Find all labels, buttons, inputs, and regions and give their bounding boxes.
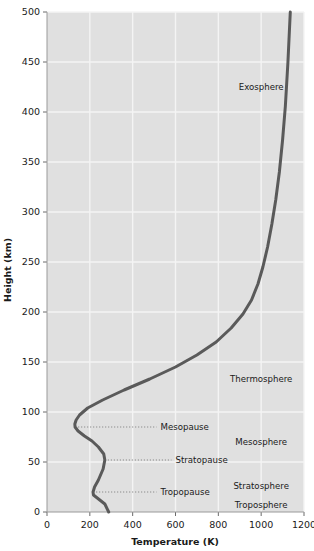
y-tick-label: 100 [22, 406, 40, 417]
atmosphere-temperature-chart: 050100150200250300350400450500 020040060… [0, 0, 314, 551]
x-tick-label: 600 [166, 519, 184, 530]
y-tick-label: 500 [22, 6, 40, 17]
x-tick-label: 1000 [249, 519, 273, 530]
pause-tropopause: Tropopause [160, 487, 210, 497]
y-axis-title: Height (km) [2, 238, 13, 302]
y-tick-label: 300 [22, 206, 40, 217]
pause-stratopause: Stratopause [176, 455, 228, 465]
y-tick-label: 0 [34, 506, 40, 517]
x-tick-label: 400 [124, 519, 142, 530]
y-tick-label: 350 [22, 156, 40, 167]
x-axis-title: Temperature (K) [131, 536, 219, 547]
layer-stratosphere: Stratosphere [233, 481, 289, 491]
y-tick-label: 200 [22, 306, 40, 317]
x-tick-label: 1200 [292, 519, 314, 530]
pause-mesopause: Mesopause [161, 422, 209, 432]
layer-mesosphere: Mesosphere [235, 437, 287, 447]
y-tick-label: 400 [22, 106, 40, 117]
y-tick-label: 150 [22, 356, 40, 367]
chart-canvas: 050100150200250300350400450500 020040060… [0, 0, 314, 551]
x-tick-label: 200 [81, 519, 99, 530]
layer-troposphere: Troposphere [234, 500, 288, 510]
y-tick-label: 250 [22, 256, 40, 267]
x-tick-label: 0 [44, 519, 50, 530]
y-tick-label: 50 [28, 456, 40, 467]
y-tick-label: 450 [22, 56, 40, 67]
x-tick-label: 800 [209, 519, 227, 530]
layer-thermosphere: Thermosphere [229, 374, 292, 384]
layer-exosphere: Exosphere [239, 82, 284, 92]
